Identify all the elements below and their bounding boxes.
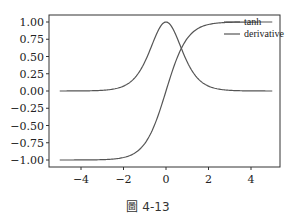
line-chart: 1.000.750.500.250.00−0.25−0.50−0.75−1.00… bbox=[0, 0, 296, 195]
y-tick-label: 1.00 bbox=[20, 16, 45, 29]
legend-tanh-label: tanh bbox=[244, 16, 261, 27]
x-tick-label: −4 bbox=[73, 173, 89, 186]
x-tick-label: 0 bbox=[163, 173, 170, 186]
y-tick-label: 0.25 bbox=[20, 68, 45, 81]
legend-derivative-label: derivative bbox=[244, 28, 285, 39]
y-tick-label: −1.00 bbox=[10, 154, 44, 167]
x-tick-label: −2 bbox=[115, 173, 131, 186]
y-tick-label: 0.75 bbox=[20, 33, 45, 46]
x-tick-label: 2 bbox=[205, 173, 212, 186]
y-tick-label: −0.50 bbox=[10, 120, 44, 133]
x-axis-ticks: −4−2024 bbox=[73, 167, 255, 186]
derivative-series-line bbox=[60, 22, 273, 91]
x-tick-label: 4 bbox=[248, 173, 255, 186]
y-tick-label: −0.25 bbox=[10, 102, 44, 115]
y-tick-label: 0.00 bbox=[20, 85, 45, 98]
y-tick-label: −0.75 bbox=[10, 137, 44, 150]
y-axis-ticks: 1.000.750.500.250.00−0.25−0.50−0.75−1.00 bbox=[10, 16, 49, 167]
legend: tanh derivative bbox=[224, 16, 285, 39]
figure-caption: 圖 4-13 bbox=[0, 197, 296, 214]
y-tick-label: 0.50 bbox=[20, 51, 45, 64]
